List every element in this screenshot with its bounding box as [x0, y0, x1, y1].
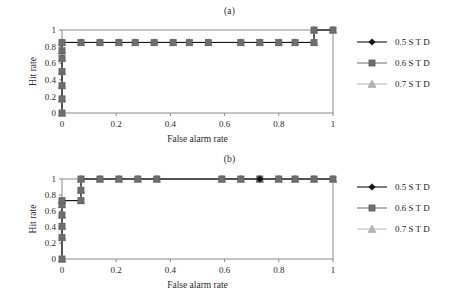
- marker-square: [311, 39, 317, 45]
- x-axis-title: False alarm rate: [167, 134, 228, 144]
- marker-square: [330, 176, 336, 182]
- marker-square: [78, 176, 84, 182]
- series-line: [62, 179, 333, 259]
- marker-square: [186, 39, 192, 45]
- marker-square: [59, 55, 65, 61]
- marker-square: [292, 39, 298, 45]
- x-tick-label: 0.4: [165, 119, 177, 129]
- series-line: [62, 179, 333, 259]
- marker-square: [154, 176, 160, 182]
- marker-square: [238, 39, 244, 45]
- panel-b-plot: 00.20.40.60.8100.20.40.60.81False alarm …: [0, 167, 459, 291]
- marker-square: [219, 176, 225, 182]
- marker-diamond: [369, 184, 376, 191]
- y-tick-label: 0.8: [45, 42, 57, 52]
- x-tick-label: 0.6: [219, 265, 231, 275]
- marker-diamond: [369, 39, 376, 46]
- marker-square: [292, 176, 298, 182]
- legend-label: 0.7 S T D: [395, 79, 430, 89]
- legend-label: 0.6 S T D: [395, 203, 430, 213]
- y-tick-label: 0.6: [45, 206, 57, 216]
- marker-square: [132, 39, 138, 45]
- marker-square: [238, 176, 244, 182]
- y-tick-label: 0.4: [45, 75, 57, 85]
- marker-square: [311, 176, 317, 182]
- marker-square: [78, 39, 84, 45]
- marker-square: [59, 256, 65, 262]
- panel-a-svg: 00.20.40.60.8100.20.40.60.81False alarm …: [0, 18, 459, 143]
- legend-label: 0.5 S T D: [395, 182, 430, 192]
- y-tick-label: 0: [52, 254, 57, 264]
- y-tick-label: 0.2: [45, 92, 56, 102]
- marker-square: [170, 39, 176, 45]
- y-tick-label: 1: [52, 174, 57, 184]
- y-tick-label: 0.2: [45, 238, 56, 248]
- y-tick-label: 0: [52, 108, 57, 118]
- x-tick-label: 0: [60, 119, 65, 129]
- marker-square: [59, 83, 65, 89]
- y-axis-title: Hit rate: [28, 205, 38, 234]
- series-line: [62, 179, 333, 259]
- marker-square: [59, 68, 65, 74]
- marker-square: [78, 187, 84, 193]
- marker-square: [59, 39, 65, 45]
- marker-square: [369, 60, 375, 66]
- marker-square: [257, 39, 263, 45]
- y-tick-label: 0.6: [45, 58, 57, 68]
- marker-square: [311, 27, 317, 33]
- x-tick-label: 0: [60, 265, 65, 275]
- marker-square: [59, 96, 65, 102]
- marker-square: [59, 223, 65, 229]
- marker-square: [116, 176, 122, 182]
- x-tick-label: 1: [331, 119, 336, 129]
- y-tick-label: 1: [52, 25, 57, 35]
- panel-a-caption: (a): [0, 6, 459, 16]
- marker-square: [276, 176, 282, 182]
- marker-square: [97, 39, 103, 45]
- marker-square: [151, 39, 157, 45]
- x-tick-label: 0.8: [273, 119, 285, 129]
- x-tick-label: 1: [331, 265, 336, 275]
- marker-square: [369, 205, 375, 211]
- x-tick-label: 0.2: [111, 265, 122, 275]
- marker-square: [135, 176, 141, 182]
- panel-a: (a) 00.20.40.60.8100.20.40.60.81False al…: [0, 0, 459, 145]
- y-tick-label: 0.8: [45, 190, 57, 200]
- marker-square: [59, 198, 65, 204]
- y-tick-label: 0.4: [45, 222, 57, 232]
- y-axis-title: Hit rate: [28, 57, 38, 86]
- legend-label: 0.7 S T D: [395, 224, 430, 234]
- marker-square: [59, 110, 65, 116]
- panel-b: (b) 00.20.40.60.8100.20.40.60.81False al…: [0, 145, 459, 291]
- x-tick-label: 0.4: [165, 265, 177, 275]
- roc-figure: (a) 00.20.40.60.8100.20.40.60.81False al…: [0, 0, 459, 291]
- marker-square: [97, 176, 103, 182]
- marker-square: [78, 198, 84, 204]
- legend-label: 0.5 S T D: [395, 37, 430, 47]
- marker-square: [59, 234, 65, 240]
- x-tick-label: 0.6: [219, 119, 231, 129]
- x-tick-label: 0.2: [111, 119, 122, 129]
- marker-square: [205, 39, 211, 45]
- marker-square: [59, 48, 65, 54]
- x-tick-label: 0.8: [273, 265, 285, 275]
- panel-a-plot: 00.20.40.60.8100.20.40.60.81False alarm …: [0, 18, 459, 143]
- marker-square: [59, 212, 65, 218]
- marker-square: [276, 39, 282, 45]
- x-axis-title: False alarm rate: [167, 280, 228, 290]
- panel-b-caption: (b): [0, 154, 459, 164]
- panel-b-svg: 00.20.40.60.8100.20.40.60.81False alarm …: [0, 167, 459, 291]
- legend-label: 0.6 S T D: [395, 58, 430, 68]
- marker-square: [116, 39, 122, 45]
- marker-square: [330, 27, 336, 33]
